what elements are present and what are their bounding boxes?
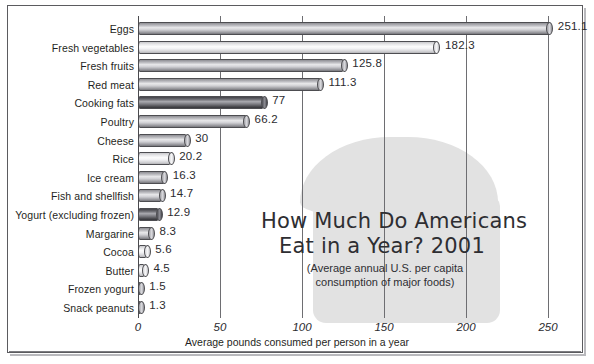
bar-row: 12.9 xyxy=(138,208,169,221)
bar-row: 5.6 xyxy=(138,245,157,258)
bar-value-label: 30 xyxy=(195,132,208,144)
axis-baseline xyxy=(9,351,581,352)
category-label-rice: Rice xyxy=(4,153,134,165)
plot-area: 251.1Eggs182.3Fresh vegetables125.8Fresh… xyxy=(0,0,594,364)
bar-poultry xyxy=(138,115,247,128)
x-tick-label-250: 250 xyxy=(528,321,568,333)
x-tick-label-0: 0 xyxy=(118,321,158,333)
bar-rice xyxy=(138,152,171,165)
category-label-cocoa: Cocoa xyxy=(4,246,134,258)
bar-value-label: 77 xyxy=(272,94,285,106)
category-label-poultry: Poultry xyxy=(4,116,134,128)
bar-end-cap xyxy=(138,282,145,295)
category-label-eggs: Eggs xyxy=(4,23,134,35)
bar-end-cap xyxy=(156,208,163,221)
category-label-margarine: Margarine xyxy=(4,228,134,240)
bar-value-label: 14.7 xyxy=(170,187,193,199)
category-label-fish-and-shellfish: Fish and shellfish xyxy=(4,190,134,202)
x-tick-label-200: 200 xyxy=(446,321,486,333)
bar-value-label: 12.9 xyxy=(167,206,190,218)
bar-value-label: 111.3 xyxy=(329,76,357,88)
bar-row: 30 xyxy=(138,134,197,147)
bar-end-cap xyxy=(341,59,348,72)
bar-row: 4.5 xyxy=(138,264,155,277)
bar-cheese xyxy=(138,134,187,147)
bar-row: 20.2 xyxy=(138,152,181,165)
chart-title-line-1: How Much Do Americans xyxy=(196,209,592,233)
bar-value-label: 4.5 xyxy=(153,262,170,274)
category-label-snack-peanuts: Snack peanuts xyxy=(4,302,134,314)
chart-subtitle-line-2: consumption of major foods) xyxy=(205,275,565,289)
bar-row: 14.7 xyxy=(138,189,172,202)
bar-value-label: 125.8 xyxy=(352,57,382,69)
bar-fresh-fruits xyxy=(138,59,344,72)
bar-cooking-fats xyxy=(138,96,264,109)
bar-end-cap xyxy=(243,115,250,128)
bar-end-cap xyxy=(142,264,149,277)
bar-end-cap xyxy=(159,189,166,202)
bar-row: 182.3 xyxy=(138,41,447,54)
bar-series: 251.1Eggs182.3Fresh vegetables125.8Fresh… xyxy=(0,0,594,364)
category-label-fresh-vegetables: Fresh vegetables xyxy=(4,42,134,54)
bar-eggs xyxy=(138,22,550,35)
category-label-cheese: Cheese xyxy=(4,135,134,147)
bar-value-label: 20.2 xyxy=(179,150,202,162)
x-tick-label-150: 150 xyxy=(364,321,404,333)
category-label-cooking-fats: Cooking fats xyxy=(4,97,134,109)
bar-row: 66.2 xyxy=(138,115,257,128)
category-label-red-meat: Red meat xyxy=(4,79,134,91)
bar-row: 1.5 xyxy=(138,282,151,295)
category-label-butter: Butter xyxy=(4,265,134,277)
bar-value-label: 8.3 xyxy=(160,225,177,237)
category-label-ice-cream: Ice cream xyxy=(4,172,134,184)
x-axis-title: Average pounds consumed per person in a … xyxy=(0,336,594,348)
bar-end-cap xyxy=(148,227,155,240)
bar-end-cap xyxy=(138,301,145,314)
bar-end-cap xyxy=(168,152,175,165)
bar-row: 125.8 xyxy=(138,59,354,72)
bar-end-cap xyxy=(184,134,191,147)
bar-row: 251.1 xyxy=(138,22,560,35)
bar-end-cap xyxy=(546,22,553,35)
bar-end-cap xyxy=(261,96,268,109)
category-label-fresh-fruits: Fresh fruits xyxy=(4,60,134,72)
bar-value-label: 251.1 xyxy=(558,20,588,32)
bar-row: 16.3 xyxy=(138,171,175,184)
bar-value-label: 182.3 xyxy=(445,39,475,51)
category-label-yogurt-excluding-frozen: Yogurt (excluding frozen) xyxy=(4,209,134,221)
bar-end-cap xyxy=(433,41,440,54)
bar-value-label: 66.2 xyxy=(255,113,278,125)
x-tick-label-50: 50 xyxy=(200,321,240,333)
bar-value-label: 16.3 xyxy=(173,169,196,181)
chart-root: 251.1Eggs182.3Fresh vegetables125.8Fresh… xyxy=(0,0,594,364)
bar-value-label: 5.6 xyxy=(155,243,172,255)
bar-row: 8.3 xyxy=(138,227,162,240)
chart-title-line-2: Eat in a Year? 2001 xyxy=(196,234,568,258)
x-tick-label-100: 100 xyxy=(282,321,322,333)
bar-fresh-vegetables xyxy=(138,41,437,54)
category-label-frozen-yogurt: Frozen yogurt xyxy=(4,283,134,295)
chart-subtitle-line-1: (Average annual U.S. per capita xyxy=(205,261,565,275)
bar-row: 111.3 xyxy=(138,78,331,91)
bar-row: 77 xyxy=(138,96,274,109)
bar-red-meat xyxy=(138,78,321,91)
bar-end-cap xyxy=(161,171,168,184)
bar-value-label: 1.3 xyxy=(149,299,166,311)
bar-end-cap xyxy=(317,78,324,91)
bar-end-cap xyxy=(144,245,151,258)
bar-value-label: 1.5 xyxy=(149,280,166,292)
bar-row: 1.3 xyxy=(138,301,151,314)
